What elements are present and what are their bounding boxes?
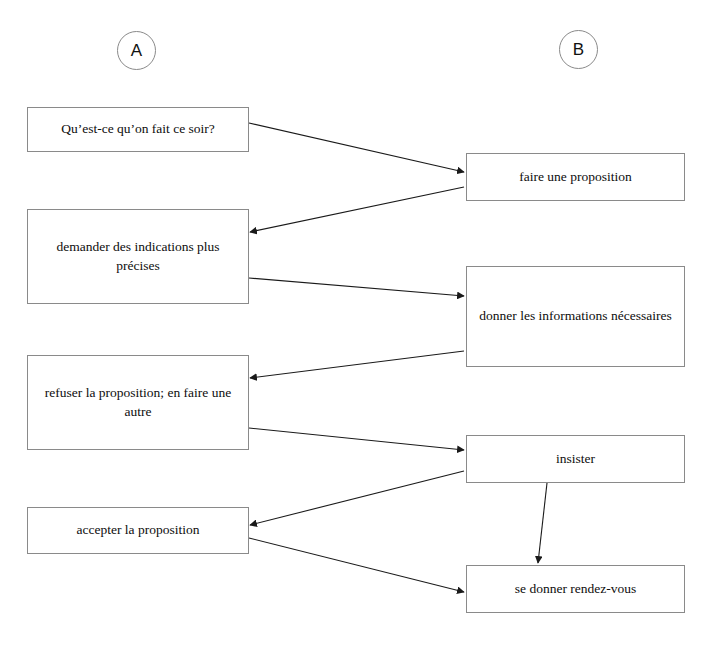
node-b4-label: se donner rendez-vous (475, 580, 676, 598)
node-a4-label: accepter la proposition (36, 521, 240, 539)
column-marker-a-label: A (131, 41, 142, 61)
edge-a2-to-b2 (249, 278, 464, 296)
edge-b2-to-a3 (250, 351, 464, 378)
node-a1[interactable]: Qu’est-ce qu’on fait ce soir? (27, 107, 249, 152)
edge-b1-to-a2 (250, 187, 464, 232)
node-a2[interactable]: demander des indications plus précises (27, 209, 249, 304)
node-b2[interactable]: donner les informations nécessaires (466, 266, 685, 367)
edge-a1-to-b1 (249, 123, 464, 172)
diagram-canvas: A B Qu’est-ce qu’on fait ce soir? demand… (0, 0, 712, 651)
node-b3[interactable]: insister (466, 435, 685, 483)
node-b1[interactable]: faire une proposition (466, 153, 685, 201)
node-a2-label: demander des indications plus précises (36, 238, 240, 274)
edge-a4-to-b4 (249, 538, 464, 592)
edge-b3-to-b4 (538, 483, 547, 563)
node-a1-label: Qu’est-ce qu’on fait ce soir? (36, 120, 240, 138)
column-marker-b: B (559, 30, 598, 69)
column-marker-a: A (117, 31, 156, 70)
column-marker-b-label: B (573, 40, 584, 60)
node-b1-label: faire une proposition (475, 168, 676, 186)
node-b2-label: donner les informations nécessaires (475, 307, 676, 325)
node-a3[interactable]: refuser la proposition; en faire une aut… (27, 355, 249, 450)
edge-b3-to-a4 (250, 471, 464, 525)
node-b3-label: insister (475, 450, 676, 468)
edge-a3-to-b3 (249, 428, 464, 450)
node-a4[interactable]: accepter la proposition (27, 507, 249, 554)
node-a3-label: refuser la proposition; en faire une aut… (36, 384, 240, 420)
node-b4[interactable]: se donner rendez-vous (466, 565, 685, 613)
